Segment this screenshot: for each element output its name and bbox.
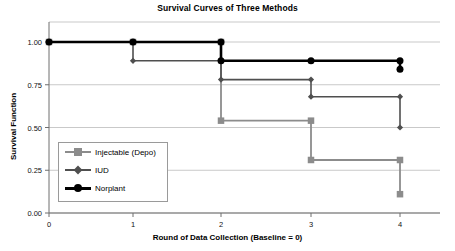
legend-item-iud: IUD (59, 161, 167, 179)
svg-text:0.75: 0.75 (27, 81, 42, 90)
svg-text:0.50: 0.50 (27, 124, 42, 133)
legend-marker-diamond-icon (65, 164, 91, 176)
svg-text:0.25: 0.25 (27, 166, 42, 175)
y-axis-label: Survival Function (9, 93, 18, 160)
svg-text:0: 0 (47, 220, 51, 229)
legend-item-norplant: Norplant (59, 179, 167, 197)
series-norplant (46, 39, 404, 73)
svg-text:4: 4 (398, 220, 402, 229)
legend-label-norplant: Norplant (95, 184, 125, 193)
svg-text:3: 3 (309, 220, 313, 229)
svg-text:2: 2 (219, 220, 223, 229)
svg-text:1: 1 (131, 220, 135, 229)
legend-marker-circle-icon (65, 182, 91, 194)
y-axis-ticks: 0.000.250.500.751.00 (27, 38, 49, 218)
plot-canvas: 0.000.250.500.751.00 01234 (0, 0, 455, 251)
svg-text:0.00: 0.00 (27, 209, 42, 218)
x-axis-label: Round of Data Collection (Baseline = 0) (0, 233, 455, 242)
x-axis-ticks: 01234 (47, 213, 402, 229)
legend-label-injectable-depo: Injectable (Depo) (95, 148, 156, 157)
legend-marker-square-icon (65, 146, 91, 158)
svg-text:1.00: 1.00 (27, 38, 42, 47)
survival-curve-chart: Survival Curves of Three Methods 0.000.2… (0, 0, 455, 251)
legend-label-iud: IUD (95, 166, 109, 175)
legend-item-injectable-depo: Injectable (Depo) (59, 143, 167, 161)
chart-legend: Injectable (Depo) IUD Norplant (58, 142, 168, 202)
